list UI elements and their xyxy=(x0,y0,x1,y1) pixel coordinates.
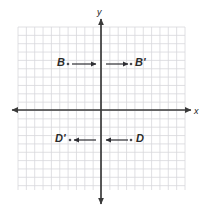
point-label-b-prime: B' xyxy=(135,57,146,68)
y-axis-label: y xyxy=(97,8,102,17)
point-marker-d-prime xyxy=(69,139,72,142)
point-label-d: D xyxy=(136,133,144,144)
axis-lines xyxy=(12,19,191,204)
point-label-d-prime: D' xyxy=(55,133,66,144)
point-marker-b xyxy=(67,63,70,66)
coordinate-plane-figure: x y B B' D' D xyxy=(0,0,206,215)
coordinate-plane-svg xyxy=(0,0,206,215)
point-marker-b-prime xyxy=(130,63,133,66)
point-marker-d xyxy=(130,139,133,142)
x-axis-label: x xyxy=(194,107,199,116)
point-label-b: B xyxy=(57,57,65,68)
